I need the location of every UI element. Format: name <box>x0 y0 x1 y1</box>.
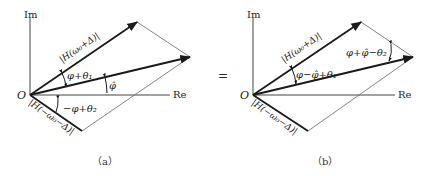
im-axis-label: Im <box>247 9 261 20</box>
origin-label: O <box>240 89 249 102</box>
re-axis-label: Re <box>398 89 412 100</box>
angle-label-lower: −φ+θ₂ <box>63 103 97 114</box>
im-axis-label: Im <box>24 9 38 20</box>
equals-sign: = <box>218 69 228 83</box>
origin-label: O <box>17 89 26 102</box>
angle-arc-upper <box>62 73 66 87</box>
vector-upper <box>253 22 361 95</box>
angle-label-upper: φ−φ̂+θ₁ <box>296 69 337 80</box>
lower-vector-label: |H(−ω₀−Δ)| <box>249 97 299 137</box>
angle-arc-phihat <box>105 77 107 93</box>
parallelogram-edge-upper <box>137 22 190 57</box>
panel-b: Im Re O |H(ω₀+Δ)| |H(−ω₀−Δ)| φ−φ̂+θ₁ φ+φ… <box>240 9 413 167</box>
angle-label-phihat: φ̂ <box>109 80 116 91</box>
panel-a: Im Re O |H(ω₀+Δ)| |H(−ω₀−Δ)| φ+θ₁ φ̂ −φ+… <box>17 9 190 167</box>
angle-label-upper: φ+θ₁ <box>67 70 92 81</box>
upper-vector-label: |H(ω₀+Δ)| <box>280 31 324 66</box>
re-axis-label: Re <box>173 89 187 100</box>
caption-b: （b） <box>312 156 338 167</box>
angle-label-right: φ+φ̂−θ₂ <box>346 47 387 58</box>
angle-arc-right <box>389 44 391 61</box>
caption-a: （a） <box>92 156 118 167</box>
vector-upper <box>30 22 137 95</box>
phasor-diagram: Im Re O |H(ω₀+Δ)| |H(−ω₀−Δ)| φ+θ₁ φ̂ −φ+… <box>0 0 427 176</box>
angle-arc-lower <box>56 99 58 112</box>
